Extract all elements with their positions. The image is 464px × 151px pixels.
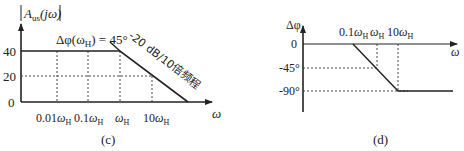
y-axis-label: Δφ bbox=[286, 18, 301, 32]
y-tick-0: 0 bbox=[8, 95, 15, 110]
guide-lines bbox=[303, 44, 408, 91]
x-tick-10wh: 10ωH bbox=[387, 25, 413, 41]
x-tick-10wh: 10ωH bbox=[143, 111, 169, 127]
y-tick-40: 40 bbox=[3, 44, 16, 59]
caption-d: (d) bbox=[373, 132, 388, 147]
caption-c: (c) bbox=[101, 132, 115, 147]
slope-annotation: -20 dB/10倍频程 bbox=[126, 28, 204, 91]
svg-text:Aus(jω): Aus(jω) bbox=[23, 6, 61, 23]
guide-lines bbox=[21, 51, 152, 102]
y-tick-20: 20 bbox=[3, 69, 16, 84]
x-axis-label: ω bbox=[451, 45, 459, 59]
phase-curve bbox=[353, 44, 453, 91]
y-tick-minus45: -45° bbox=[279, 61, 300, 75]
y-tick-0: 0 bbox=[291, 37, 297, 51]
x-tick-0-1wh: 0.1ωH bbox=[74, 111, 103, 127]
x-tick-wh: ωH bbox=[115, 111, 129, 127]
x-tick-wh: ωH bbox=[370, 25, 384, 41]
y-tick-minus90: -90° bbox=[279, 84, 300, 98]
y-axis-label: Aus(jω) bbox=[21, 5, 61, 23]
phase-annotation: Δφ(ωH) = 45° bbox=[56, 32, 128, 49]
x-tick-0-1wh: 0.1ωH bbox=[339, 25, 368, 41]
figure-c-magnitude-plot: 40 20 0 Aus(jω) Δφ(ωH) = 45° -20 dB/10倍频… bbox=[3, 5, 221, 147]
x-tick-0-01wh: 0.01ωH bbox=[36, 111, 71, 127]
x-axis-label: ω bbox=[212, 106, 221, 121]
figure-d-phase-plot: Δφ 0 -45° -90° 0.1ωH ωH 10ωH ω (d) bbox=[279, 18, 459, 147]
